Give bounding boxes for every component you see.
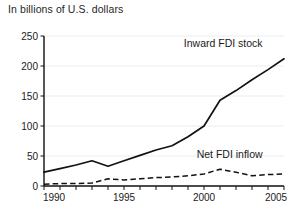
y-tick-label: 50 [27,151,39,162]
y-tick-label: 200 [21,61,38,72]
line-series-net-fdi-inflow [44,169,284,184]
chart-container: In billions of U.S. dollars 050100150200… [0,0,298,212]
x-tick-label: 2005 [265,192,288,203]
chart-plot-area: 050100150200250 1990199520002005 Inward … [0,0,298,212]
y-tick-label: 0 [32,181,38,192]
y-axis-ticks-group: 050100150200250 [21,31,44,192]
series-label-net-fdi-inflow: Net FDI inflow [197,148,263,160]
x-tick-label: 2000 [193,192,216,203]
gridlines-group [44,36,284,156]
y-tick-label: 100 [21,121,38,132]
y-tick-label: 250 [21,31,38,42]
series-label-inward-fdi-stock: Inward FDI stock [184,37,264,49]
x-tick-label: 1990 [43,192,66,203]
x-tick-label: 1995 [113,192,136,203]
x-axis-ticks-group: 1990199520002005 [43,186,288,203]
y-tick-label: 150 [21,91,38,102]
